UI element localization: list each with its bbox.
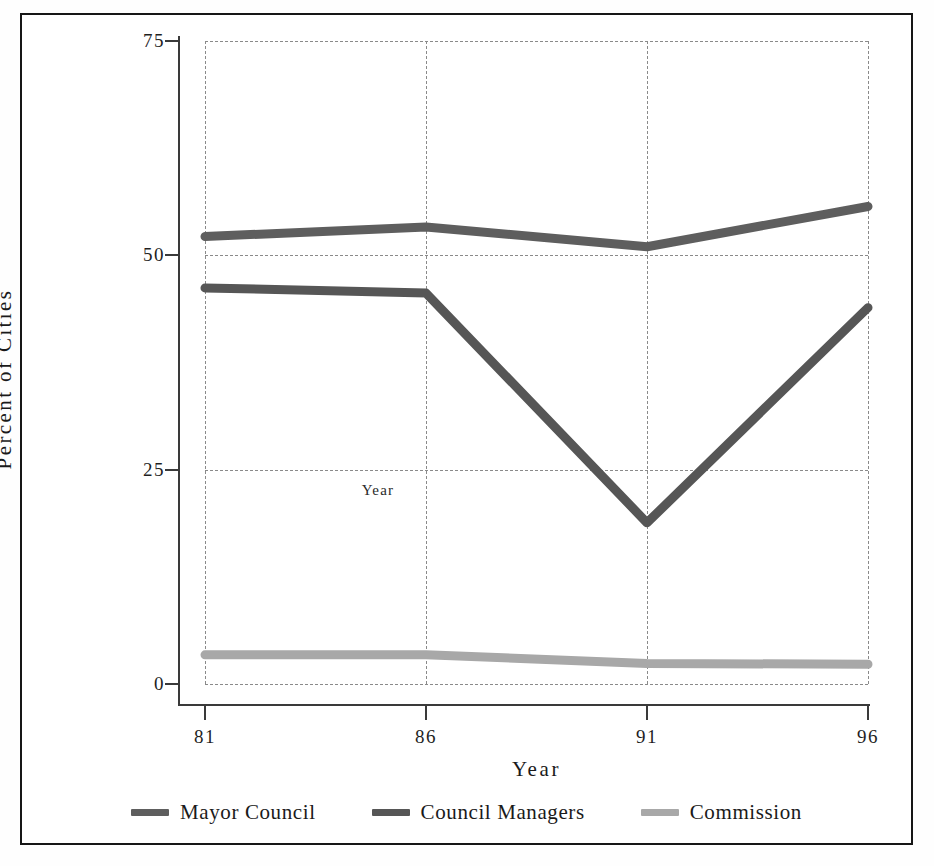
legend-item[interactable]: Council Managers — [372, 800, 585, 825]
x-tick-mark — [204, 706, 206, 720]
legend-item[interactable]: Mayor Council — [131, 800, 316, 825]
grid-line-vertical — [868, 41, 869, 684]
series-line — [205, 206, 868, 246]
legend-label: Council Managers — [421, 800, 585, 825]
legend-item[interactable]: Commission — [641, 800, 802, 825]
series-line — [205, 655, 868, 664]
legend-swatch-icon — [641, 809, 679, 816]
series-line — [205, 288, 868, 523]
y-tick-label: 25 — [105, 459, 165, 481]
legend-label: Mayor Council — [180, 800, 316, 825]
x-tick-label: 86 — [396, 726, 456, 748]
x-tick-label: 96 — [838, 726, 898, 748]
y-tick-mark — [165, 254, 179, 256]
y-tick-label: 75 — [105, 30, 165, 52]
x-tick-mark — [646, 706, 648, 720]
legend-label: Commission — [690, 800, 802, 825]
y-axis-line — [178, 36, 180, 706]
series-lines — [205, 41, 868, 684]
legend-swatch-icon — [131, 809, 169, 816]
chart-legend: Mayor CouncilCouncil ManagersCommission — [20, 800, 913, 825]
x-tick-mark — [867, 706, 869, 720]
grid-line-horizontal — [205, 684, 868, 685]
plot-inline-annotation: Year — [362, 482, 394, 499]
legend-swatch-icon — [372, 809, 410, 816]
y-axis-title: Percent of Cities — [0, 214, 17, 544]
x-tick-label: 91 — [617, 726, 677, 748]
y-tick-label: 0 — [105, 673, 165, 695]
plot-area: Year — [205, 41, 868, 684]
figure-canvas: 7550250 81869196 Year Percent of Cities … — [0, 0, 934, 866]
x-axis-title: Year — [205, 757, 868, 782]
y-tick-mark — [165, 683, 179, 685]
x-tick-mark — [425, 706, 427, 720]
x-axis-line — [178, 704, 870, 706]
x-tick-label: 81 — [175, 726, 235, 748]
y-tick-mark — [165, 469, 179, 471]
y-tick-label: 50 — [105, 244, 165, 266]
y-tick-mark — [165, 40, 179, 42]
